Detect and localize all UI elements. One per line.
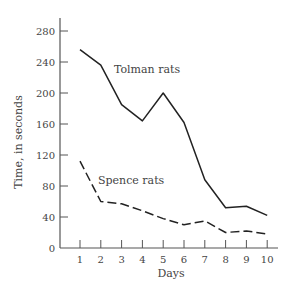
x-axis-label: Days bbox=[157, 267, 185, 280]
x-tick-label: 5 bbox=[160, 254, 166, 265]
spence-rats-line bbox=[80, 161, 267, 234]
x-tick-label: 2 bbox=[98, 254, 104, 265]
y-axis-label: Time, in seconds bbox=[12, 95, 25, 189]
x-tick-label: 8 bbox=[222, 254, 228, 265]
y-tick-label: 40 bbox=[42, 212, 55, 223]
y-tick-label: 280 bbox=[36, 26, 55, 37]
axes: 0408012016020024028012345678910DaysTime,… bbox=[12, 18, 278, 280]
chart-canvas: 0408012016020024028012345678910DaysTime,… bbox=[0, 0, 297, 293]
tolman-rats-label: Tolman rats bbox=[114, 63, 180, 76]
spence-rats-label: Spence rats bbox=[98, 174, 165, 187]
x-tick-label: 3 bbox=[118, 254, 124, 265]
y-tick-label: 80 bbox=[42, 181, 55, 192]
series-group bbox=[80, 50, 267, 235]
labels: Tolman ratsSpence rats bbox=[98, 63, 180, 187]
x-tick-label: 1 bbox=[77, 254, 83, 265]
x-tick-label: 6 bbox=[181, 254, 187, 265]
y-tick-label: 0 bbox=[49, 243, 55, 254]
x-tick-label: 10 bbox=[261, 254, 274, 265]
line-chart: 0408012016020024028012345678910DaysTime,… bbox=[0, 0, 297, 293]
y-tick-label: 120 bbox=[36, 150, 55, 161]
y-tick-label: 160 bbox=[36, 119, 55, 130]
x-tick-label: 7 bbox=[202, 254, 208, 265]
y-tick-label: 200 bbox=[36, 88, 55, 99]
x-tick-label: 9 bbox=[243, 254, 249, 265]
x-tick-label: 4 bbox=[139, 254, 145, 265]
y-tick-label: 240 bbox=[36, 57, 55, 68]
